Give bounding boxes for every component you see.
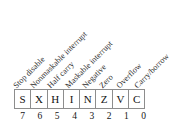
flag-labels-layer: Stop disable Nonmaskable interrupt Half … [0,0,188,90]
bit-cell-s: S [14,89,31,109]
bit-index-2: 2 [100,111,117,124]
bit-cell-v: V [112,89,129,109]
bit-index-6: 6 [31,111,48,124]
bit-index-0: 0 [135,111,152,124]
register-bit-row: S X H I N Z V C [14,89,144,109]
bit-index-row: 7 6 5 4 3 2 1 0 [14,111,152,124]
bit-index-1: 1 [118,111,135,124]
bit-cell-z: Z [95,89,112,109]
bit-cell-h: H [47,89,64,109]
bit-index-5: 5 [49,111,66,124]
bit-cell-i: I [63,89,80,109]
bit-index-7: 7 [14,111,31,124]
bit-cell-c: C [128,89,145,109]
bit-index-3: 3 [83,111,100,124]
bit-cell-x: X [30,89,47,109]
bit-cell-n: N [79,89,96,109]
bit-index-4: 4 [66,111,83,124]
register-diagram: Stop disable Nonmaskable interrupt Half … [0,0,188,134]
